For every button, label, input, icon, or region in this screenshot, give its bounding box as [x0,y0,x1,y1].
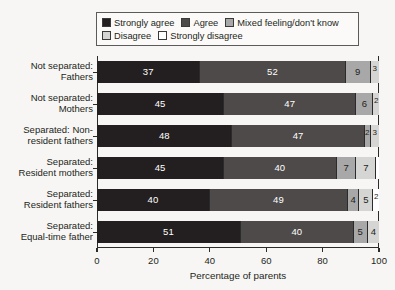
bar-segment[interactable]: 47 [232,125,365,147]
figure-root: Strongly agree Agree Mixed feeling/don't… [0,0,395,290]
y-axis-category-label: Not separated:Mothers [1,93,93,114]
category-label-line: Separated: [1,157,93,168]
x-axis-tick-label: 60 [261,255,272,266]
plot-area: 3752934547624847234540774049452514054020… [97,56,379,248]
y-axis-category-label: Separated: Non-resident fathers [1,125,93,146]
bar-segment[interactable]: 6 [356,93,373,115]
y-axis-tick [93,168,97,169]
bar-segment-value: 6 [362,99,367,109]
bar-row[interactable]: 484723 [97,125,379,147]
bar-segment[interactable]: 5 [359,189,373,211]
legend-item-disagree: Disagree [102,31,151,41]
x-axis-tick [378,248,379,252]
bar-segment-value: 37 [143,67,154,77]
legend-swatch-icon [158,31,167,40]
y-axis-category-label: Separated:Equal-time father [1,221,93,242]
bar-segment[interactable]: 40 [224,157,337,179]
bar-segment[interactable]: 48 [97,125,232,147]
category-label-line: Not separated: [1,61,93,72]
legend-item-strongly-disagree: Strongly disagree [158,31,242,41]
bar-segment-value: 2 [374,192,378,202]
bar-segment-value: 3 [373,64,377,74]
bar-segment-value: 45 [155,163,166,173]
bar-segment[interactable]: 45 [97,157,224,179]
y-axis-category-label: Not separated:Fathers [1,61,93,82]
bar-segment-value: 48 [159,131,170,141]
bar-segment-value: 40 [275,163,286,173]
bar-segment-value: 9 [355,67,360,77]
chart-legend: Strongly agree Agree Mixed feeling/don't… [96,12,359,46]
x-axis-tick [153,248,154,252]
cropped-title-remnant [52,0,352,3]
bar-segment-value: 3 [373,128,377,138]
bar-segment-value: 5 [358,227,363,237]
legend-label: Disagree [114,31,151,41]
bar-segment[interactable]: 3 [371,125,379,147]
bar-segment[interactable]: 40 [241,221,354,243]
bar-segment[interactable]: 51 [97,221,241,243]
legend-swatch-icon [102,31,111,40]
category-label-line: Not separated: [1,93,93,104]
category-label-line: Mothers [1,104,93,115]
y-axis-category-label: Separated:Resident fathers [1,189,93,210]
bar-segment[interactable]: 45 [97,93,224,115]
y-axis-tick [93,104,97,105]
x-axis-title: Percentage of parents [97,270,379,281]
y-axis-tick [93,136,97,137]
legend-label: Strongly agree [114,18,174,28]
bar-segment[interactable]: 7 [356,157,376,179]
bar-row[interactable]: 454762 [97,93,379,115]
category-label-line: Separated: [1,189,93,200]
x-axis-tick [96,248,97,252]
x-axis-tick-label: 40 [205,255,216,266]
category-label-line: Resident mothers [1,168,93,179]
bar-segment-value: 45 [155,99,166,109]
bar-row[interactable]: 514054 [97,221,379,243]
legend-item-mixed-feeling: Mixed feeling/don't know [225,18,339,28]
bar-segment-value: 49 [273,195,284,205]
category-label-line: resident fathers [1,136,93,147]
legend-swatch-icon [225,18,234,27]
legend-label: Strongly disagree [170,31,242,41]
bar-segment[interactable]: 49 [210,189,348,211]
bar-row[interactable]: 4049452 [97,189,379,211]
x-axis-tick-label: 20 [148,255,159,266]
x-axis-tick-label: 80 [317,255,328,266]
legend-label: Mixed feeling/don't know [237,18,339,28]
x-axis-tick-label: 0 [94,255,99,266]
bar-segment[interactable]: 4 [348,189,359,211]
bar-segment[interactable]: 37 [97,61,200,83]
bar-segment[interactable]: 5 [354,221,368,243]
bar-segment-value: 7 [343,163,348,173]
bar-row[interactable]: 454077 [97,157,379,179]
x-axis-tick-label: 100 [371,255,387,266]
legend-item-strongly-agree: Strongly agree [102,18,174,28]
bar-segment-value: 4 [371,227,376,237]
legend-swatch-icon [102,18,111,27]
bar-segment[interactable]: 4 [368,221,379,243]
bar-segment[interactable] [376,157,379,179]
plot-frame [97,56,379,248]
bar-segment[interactable]: 40 [97,189,210,211]
bar-segment[interactable]: 2 [373,93,379,115]
bar-segment-value: 4 [350,195,355,205]
bar-segment-value: 47 [284,99,295,109]
bar-segment[interactable]: 2 [373,189,379,211]
bar-segment[interactable]: 9 [346,61,371,83]
bar-segment[interactable]: 3 [371,61,379,83]
legend-item-agree: Agree [181,18,218,28]
y-axis-category-label: Separated:Resident mothers [1,157,93,178]
bar-segment[interactable]: 47 [224,93,357,115]
legend-row: Strongly agree Agree Mixed feeling/don't… [102,16,353,29]
bar-segment[interactable]: 52 [200,61,345,83]
bar-segment[interactable]: 7 [337,157,357,179]
bar-segment-value: 40 [291,227,302,237]
category-label-line: Equal-time father [1,232,93,243]
category-label-line: Separated: [1,221,93,232]
legend-label: Agree [193,18,218,28]
legend-swatch-icon [181,18,190,27]
bar-segment-value: 47 [293,131,304,141]
x-axis-tick [322,248,323,252]
bar-row[interactable]: 375293 [97,61,379,83]
bar-segment-value: 52 [267,67,278,77]
